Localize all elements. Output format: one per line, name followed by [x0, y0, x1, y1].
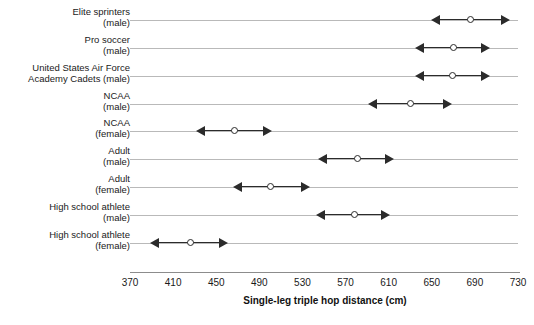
range-left-arrow-icon [196, 126, 205, 136]
mean-marker-icon [351, 211, 358, 218]
gridline [130, 48, 518, 49]
range-left-arrow-icon [415, 71, 424, 81]
mean-marker-icon [407, 100, 414, 107]
range-left-arrow-icon [316, 210, 325, 220]
mean-marker-icon [450, 44, 457, 51]
range-left-arrow-icon [415, 43, 424, 53]
gridline [130, 131, 518, 132]
range-left-arrow-icon [431, 15, 440, 25]
chart-root: Elite sprinters (male)Pro soccer (male)U… [0, 0, 534, 325]
range-right-arrow-icon [443, 99, 452, 109]
mean-marker-icon [449, 72, 456, 79]
range-right-arrow-icon [385, 154, 394, 164]
category-label: United States Air Force Academy Cadets (… [2, 63, 130, 84]
gridline [130, 104, 518, 105]
mean-marker-icon [267, 183, 274, 190]
x-tick-label: 370 [122, 277, 139, 288]
x-tick-label: 450 [208, 277, 225, 288]
x-tick-label: 410 [165, 277, 182, 288]
x-tick-label: 610 [380, 277, 397, 288]
gridline [130, 187, 518, 188]
x-tick-label: 650 [423, 277, 440, 288]
range-left-arrow-icon [368, 99, 377, 109]
range-right-arrow-icon [381, 210, 390, 220]
range-left-arrow-icon [318, 154, 327, 164]
x-tick-label: 530 [294, 277, 311, 288]
range-right-arrow-icon [481, 71, 490, 81]
range-right-arrow-icon [301, 182, 310, 192]
category-label: NCAA (female) [2, 118, 130, 139]
x-axis-title: Single-leg triple hop distance (cm) [130, 295, 520, 306]
range-right-arrow-icon [219, 238, 228, 248]
mean-marker-icon [187, 239, 194, 246]
range-left-arrow-icon [233, 182, 242, 192]
category-label: High school athlete (male) [2, 202, 130, 223]
gridline [130, 20, 518, 21]
mean-marker-icon [231, 127, 238, 134]
category-label: Adult (male) [2, 146, 130, 167]
range-left-arrow-icon [150, 238, 159, 248]
mean-marker-icon [354, 155, 361, 162]
x-tick-label: 730 [510, 277, 527, 288]
x-tick-label: 570 [337, 277, 354, 288]
category-label: Pro soccer (male) [2, 35, 130, 56]
plot-area: Elite sprinters (male)Pro soccer (male)U… [130, 0, 518, 272]
gridline [130, 76, 518, 77]
category-label: Elite sprinters (male) [2, 7, 130, 28]
x-axis-line [130, 272, 520, 273]
x-tick-label: 490 [251, 277, 268, 288]
category-label: NCAA (male) [2, 91, 130, 112]
range-right-arrow-icon [481, 43, 490, 53]
range-right-arrow-icon [263, 126, 272, 136]
category-label: High school athlete (female) [2, 230, 130, 251]
range-right-arrow-icon [501, 15, 510, 25]
x-tick-label: 690 [467, 277, 484, 288]
mean-marker-icon [467, 16, 474, 23]
category-label: Adult (female) [2, 174, 130, 195]
